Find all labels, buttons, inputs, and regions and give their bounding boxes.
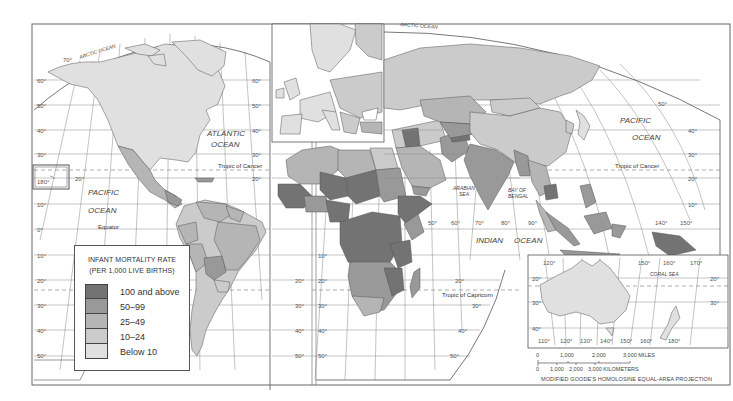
legend-label: 100 and above: [120, 287, 180, 297]
svg-text:140°: 140°: [600, 338, 613, 344]
legend-label: 25–49: [120, 317, 145, 327]
indian-ocean-label: INDIAN: [476, 236, 503, 245]
svg-text:10°: 10°: [688, 202, 698, 208]
atlantic-ocean-label: ATLANTIC: [206, 129, 245, 138]
svg-text:20°: 20°: [252, 176, 262, 182]
legend-swatch: [85, 329, 108, 344]
svg-text:110°: 110°: [538, 338, 551, 344]
svg-text:20°: 20°: [532, 276, 542, 282]
tropic-capricorn-label: Tropic of Capricorn: [442, 292, 493, 298]
svg-text:70°: 70°: [63, 57, 73, 63]
legend-label: 50–99: [120, 302, 145, 312]
scale-km-1000: 1,000: [550, 366, 564, 372]
tick-180: 180°: [37, 179, 50, 185]
scale-km-2000: 2,000: [569, 366, 583, 372]
europe-inset: [272, 24, 384, 142]
svg-text:50°: 50°: [295, 353, 305, 359]
legend-title-line2: (PER 1,000 LIVE BIRTHS): [75, 265, 189, 276]
svg-text:30°: 30°: [37, 152, 47, 158]
svg-text:40°: 40°: [252, 128, 262, 134]
scale-miles-1000: 1,000: [560, 352, 574, 358]
legend-item-25-49: 25–49: [85, 314, 189, 329]
svg-text:150°: 150°: [638, 260, 651, 266]
pacific-ocean-label-left-2: OCEAN: [88, 206, 117, 215]
atlantic-ocean-label-2: OCEAN: [211, 140, 240, 149]
legend-swatch: [85, 314, 108, 329]
scale-miles-0: 0: [536, 352, 539, 358]
svg-text:130°: 130°: [580, 338, 593, 344]
svg-text:150°: 150°: [620, 338, 633, 344]
svg-text:30°: 30°: [710, 300, 720, 306]
svg-text:160°: 160°: [640, 338, 653, 344]
svg-text:60°: 60°: [451, 220, 461, 226]
projection-note: MODIFIED GOODE'S HOMOLOSINE EQUAL-AREA P…: [541, 376, 712, 382]
bay-of-bengal-label-2: BENGAL: [508, 193, 529, 199]
legend-item-50-99: 50–99: [85, 299, 189, 314]
legend-swatch: [85, 284, 108, 299]
svg-text:30°: 30°: [532, 300, 542, 306]
legend-item-below-10: Below 10: [85, 344, 189, 359]
legend-label: Below 10: [120, 347, 157, 357]
svg-text:30°: 30°: [37, 303, 47, 309]
svg-text:80°: 80°: [501, 220, 511, 226]
tropic-cancer-label-left: Tropic of Cancer: [218, 163, 262, 169]
svg-text:30°: 30°: [688, 152, 698, 158]
legend-item-10-24: 10–24: [85, 329, 189, 344]
svg-text:50°: 50°: [252, 103, 262, 109]
pacific-ocean-label-right: PACIFIC: [620, 116, 651, 125]
svg-text:40°: 40°: [37, 328, 47, 334]
arctic-ocean-label-right: ARCTIC OCEAN: [399, 21, 438, 30]
pacific-ocean-label-right-2: OCEAN: [632, 133, 661, 142]
svg-text:90°: 90°: [528, 220, 538, 226]
legend-title-line1: INFANT MORTALITY RATE: [75, 254, 189, 265]
svg-text:40°: 40°: [295, 328, 305, 334]
scale-km-3000: 3,000 KILOMETERS: [588, 366, 639, 372]
scale-km-0: 0: [536, 366, 539, 372]
svg-text:0°: 0°: [37, 227, 43, 233]
australia-inset: CORAL SEA 120° 150° 160° 170° 20° 30° 40…: [528, 255, 728, 348]
svg-text:20°: 20°: [37, 278, 47, 284]
pacific-ocean-label-left: PACIFIC: [88, 188, 119, 197]
svg-text:10°: 10°: [318, 253, 328, 259]
svg-text:120°: 120°: [560, 338, 573, 344]
svg-text:20°: 20°: [75, 176, 85, 182]
svg-text:10°: 10°: [37, 202, 47, 208]
arabian-sea-label-2: SEA: [459, 191, 470, 197]
svg-text:50°: 50°: [428, 220, 438, 226]
svg-text:60°: 60°: [37, 78, 47, 84]
svg-text:150°: 150°: [680, 220, 693, 226]
svg-text:50°: 50°: [450, 353, 460, 359]
svg-text:30°: 30°: [318, 303, 328, 309]
svg-text:40°: 40°: [318, 328, 328, 334]
arctic-ocean-label-left: ARCTIC OCEAN: [78, 42, 117, 60]
scale-miles-2000: 2,000: [592, 352, 606, 358]
equator-label: Equator: [98, 224, 119, 230]
legend: INFANT MORTALITY RATE (PER 1,000 LIVE BI…: [74, 245, 190, 371]
svg-text:20°: 20°: [710, 276, 720, 282]
legend-title: INFANT MORTALITY RATE (PER 1,000 LIVE BI…: [75, 254, 189, 276]
svg-text:10°: 10°: [37, 253, 47, 259]
svg-text:50°: 50°: [658, 101, 668, 107]
svg-text:20°: 20°: [318, 278, 328, 284]
svg-text:120°: 120°: [543, 260, 556, 266]
legend-swatch: [85, 344, 108, 359]
svg-text:180°: 180°: [668, 338, 681, 344]
svg-text:50°: 50°: [37, 103, 47, 109]
svg-text:170°: 170°: [690, 260, 703, 266]
svg-text:40°: 40°: [458, 328, 468, 334]
svg-text:40°: 40°: [37, 128, 47, 134]
svg-text:50°: 50°: [318, 353, 328, 359]
svg-text:70°: 70°: [475, 220, 485, 226]
legend-item-100-above: 100 and above: [85, 284, 189, 299]
svg-text:50°: 50°: [37, 353, 47, 359]
svg-text:20°: 20°: [688, 176, 698, 182]
svg-text:60°: 60°: [252, 78, 262, 84]
svg-text:20°: 20°: [295, 278, 305, 284]
coral-sea-label: CORAL SEA: [650, 271, 679, 277]
scale-miles-3000: 3,000 MILES: [623, 352, 655, 358]
svg-text:30°: 30°: [252, 152, 262, 158]
legend-label: 10–24: [120, 332, 145, 342]
svg-text:40°: 40°: [688, 128, 698, 134]
legend-items: 100 and above 50–99 25–49 10–24 Below 10: [85, 284, 189, 359]
svg-text:40°: 40°: [532, 326, 542, 332]
